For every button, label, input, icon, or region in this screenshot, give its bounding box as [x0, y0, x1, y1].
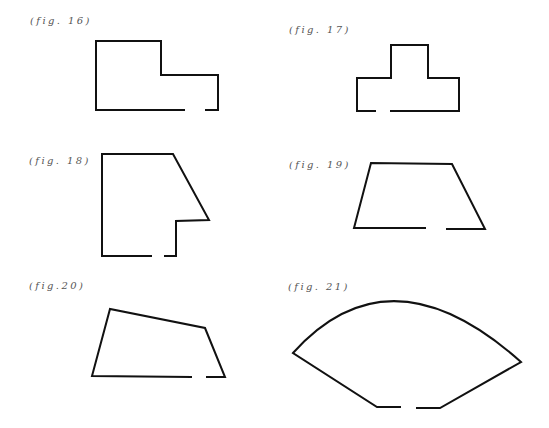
fig-19-shape: [354, 163, 485, 229]
fig-16-shape: [96, 41, 218, 110]
fig-20-shape: [92, 309, 225, 377]
figures-canvas: [0, 0, 549, 428]
fig-17-shape: [357, 45, 459, 111]
fig-18-shape: [102, 154, 209, 256]
fig-21-shape: [293, 301, 521, 408]
